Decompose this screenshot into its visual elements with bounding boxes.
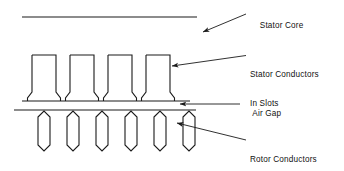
stator-slot-2 [66, 55, 71, 101]
label-stator-conductors-line1: Stator Conductors [250, 70, 319, 80]
stator-slot-3 [104, 55, 109, 101]
rotor-slot-5 [154, 111, 166, 151]
stator-slot-2-body [70, 55, 99, 101]
rotor-slot-6 [183, 111, 195, 151]
rotor-conductors-leader [177, 123, 246, 140]
label-air-gap: Air Gap [243, 99, 281, 128]
rotor-assembly [14, 110, 196, 151]
stator-slot-1-body [32, 55, 61, 101]
label-stator-core: Stator Core [250, 11, 303, 40]
stator-core-leader [203, 14, 246, 32]
stator-slot-4-body [146, 55, 175, 101]
rotor-slot-4 [125, 111, 137, 151]
label-rotor-conductors-line1: Rotor Conductors [250, 155, 317, 165]
rotor-slot-1 [38, 111, 50, 151]
stator-slot-1 [28, 55, 33, 101]
label-air-gap-text: Air Gap [252, 109, 281, 118]
rotor-slot-2 [67, 111, 79, 151]
stator-slot-3-body [108, 55, 137, 101]
stator-slot-4 [142, 55, 147, 101]
machine-cross-section-diagram: Stator Core Stator Conductors In Slots A… [0, 0, 344, 171]
stator-assembly [22, 17, 197, 101]
stator-conductors-leader [172, 56, 246, 67]
label-rotor-conductors: Rotor Conductors In Slots [250, 136, 317, 171]
rotor-slot-3 [96, 111, 108, 151]
label-stator-core-text: Stator Core [260, 21, 304, 30]
